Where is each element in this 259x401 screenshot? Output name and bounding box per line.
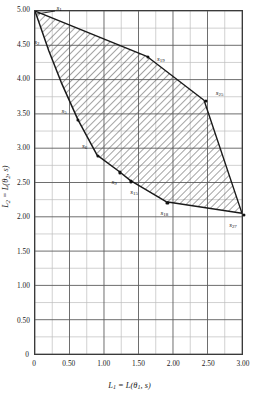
x-axis-tick-label: 3.00 xyxy=(237,360,250,367)
risk-set-chart: 00.501.001.502.002.503.003.504.004.505.0… xyxy=(0,0,259,401)
x-axis-title: L1 = L(θ1, s) xyxy=(0,381,259,390)
x-axis-tick-label: 2.00 xyxy=(167,360,180,367)
x-axis-tick-label: 0.50 xyxy=(62,360,75,367)
x-axis-tick-label: 2.50 xyxy=(202,360,215,367)
x-axis-tick-label: 1.50 xyxy=(132,360,145,367)
x-axis-tick-label: 0 xyxy=(32,360,36,367)
x-axis-tick-label: 1.00 xyxy=(97,360,110,367)
x-axis-tick-labels: 00.501.001.502.002.503.00 xyxy=(0,0,259,401)
